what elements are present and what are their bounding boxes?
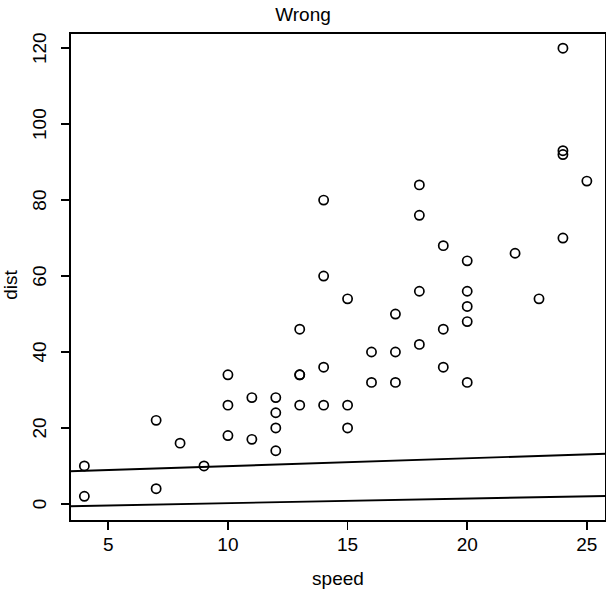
data-point (463, 378, 472, 387)
scatter-plot-figure: Wrong 020406080100120 510152025 speed di… (0, 0, 606, 595)
y-tick-label: 120 (30, 32, 51, 64)
data-point (415, 340, 424, 349)
y-tick-label: 40 (30, 341, 51, 362)
data-point (391, 309, 400, 318)
data-point (223, 401, 232, 410)
data-point (391, 347, 400, 356)
plot-canvas: Wrong 020406080100120 510152025 speed di… (0, 0, 606, 595)
lower-fit-line (70, 496, 606, 506)
data-point (343, 423, 352, 432)
data-point (152, 416, 161, 425)
x-axis-title: speed (312, 568, 364, 589)
data-point (319, 401, 328, 410)
data-point (415, 211, 424, 220)
data-point (80, 492, 89, 501)
data-point (463, 317, 472, 326)
data-point (247, 393, 256, 402)
upper-fit-line (70, 454, 606, 471)
data-point (319, 363, 328, 372)
data-point (152, 484, 161, 493)
y-axis-title: dist (0, 270, 21, 300)
data-point (463, 256, 472, 265)
x-tick-label: 20 (457, 534, 478, 555)
data-point (367, 347, 376, 356)
data-point (439, 363, 448, 372)
data-point (295, 325, 304, 334)
data-point (319, 195, 328, 204)
data-point (271, 393, 280, 402)
data-point (463, 302, 472, 311)
y-tick-label: 0 (30, 499, 51, 510)
y-tick-label: 80 (30, 190, 51, 211)
data-point (271, 446, 280, 455)
chart-title: Wrong (275, 4, 331, 25)
y-axis-ticks: 020406080100120 (30, 32, 71, 509)
data-point (223, 431, 232, 440)
data-point (343, 294, 352, 303)
data-point (343, 401, 352, 410)
data-point (271, 408, 280, 417)
data-point (415, 180, 424, 189)
data-point (391, 378, 400, 387)
data-point (582, 177, 591, 186)
data-point (319, 271, 328, 280)
chart-title-group: Wrong (275, 4, 331, 25)
data-point (80, 461, 89, 470)
data-point (271, 423, 280, 432)
data-point (439, 241, 448, 250)
plot-frame (70, 33, 606, 521)
y-tick-label: 100 (30, 108, 51, 140)
data-point (463, 287, 472, 296)
data-point (415, 287, 424, 296)
y-tick-label: 60 (30, 265, 51, 286)
data-point (510, 249, 519, 258)
data-point (367, 378, 376, 387)
data-point (295, 370, 304, 379)
x-tick-label: 15 (337, 534, 358, 555)
y-tick-label: 20 (30, 417, 51, 438)
axis-titles: speed dist (0, 270, 364, 589)
data-point (175, 439, 184, 448)
data-point (439, 325, 448, 334)
data-point (247, 435, 256, 444)
data-point (558, 44, 567, 53)
x-tick-label: 25 (576, 534, 597, 555)
data-point (534, 294, 543, 303)
data-points-group (80, 44, 592, 501)
fit-lines-group (70, 454, 606, 506)
data-point (223, 370, 232, 379)
data-point (558, 233, 567, 242)
plot-box-border (70, 33, 606, 521)
x-tick-label: 10 (217, 534, 238, 555)
x-tick-label: 5 (103, 534, 114, 555)
data-point (295, 401, 304, 410)
x-axis-ticks: 510152025 (103, 521, 597, 555)
